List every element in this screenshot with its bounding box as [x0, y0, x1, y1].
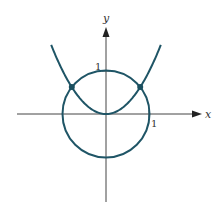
- intersection-point-right: [137, 84, 143, 90]
- x-axis-label: x: [205, 108, 212, 121]
- intersection-point-left: [69, 84, 75, 90]
- y-axis-arrow-icon: [103, 27, 110, 37]
- x-tick-label: 1: [151, 118, 157, 129]
- y-axis-label: y: [102, 12, 110, 25]
- x-axis-arrow-icon: [192, 111, 202, 118]
- diagram-canvas: y x 1 1: [0, 0, 222, 204]
- y-tick-label: 1: [95, 61, 101, 72]
